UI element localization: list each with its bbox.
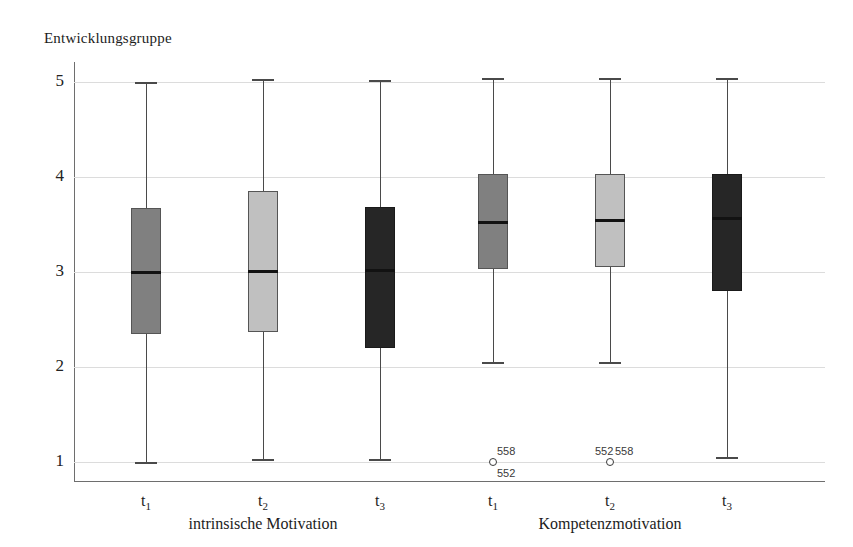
x-axis-tick-label: t2 — [233, 492, 293, 512]
whisker-upper — [493, 78, 494, 174]
whisker-lower — [380, 348, 381, 459]
chart-y-axis-title: Entwicklungsgruppe — [44, 30, 172, 47]
y-axis-tick-label: 5 — [38, 71, 64, 91]
group-label-1: intrinsische Motivation — [189, 515, 338, 533]
whisker-lower — [146, 334, 147, 462]
whisker-cap-lower — [252, 459, 274, 461]
median-line — [595, 219, 625, 222]
y-axis-tick-label: 2 — [38, 356, 64, 376]
median-line — [131, 271, 161, 274]
whisker-cap-upper — [252, 79, 274, 81]
box-iqr-rect — [712, 174, 742, 291]
whisker-cap-lower — [369, 459, 391, 461]
outlier-label: 552 — [595, 445, 613, 457]
whisker-cap-upper — [599, 78, 621, 80]
gridline — [74, 82, 825, 83]
outlier-label: 558 — [497, 445, 515, 457]
gridline — [74, 462, 825, 463]
whisker-upper — [610, 78, 611, 174]
median-line — [712, 217, 742, 220]
outlier-label: 558 — [615, 445, 633, 457]
outlier-point — [489, 458, 497, 466]
whisker-lower — [727, 291, 728, 457]
median-line — [478, 221, 508, 224]
x-tick-subscript: 1 — [145, 500, 151, 512]
x-tick-subscript: 3 — [726, 500, 732, 512]
gridline — [74, 367, 825, 368]
x-axis-tick-label: t3 — [350, 492, 410, 512]
whisker-cap-lower — [135, 462, 157, 464]
x-axis-tick-label: t1 — [463, 492, 523, 512]
whisker-cap-lower — [482, 362, 504, 364]
whisker-cap-upper — [369, 80, 391, 82]
whisker-cap-upper — [135, 82, 157, 84]
group-label-2: Kompetenzmotivation — [538, 515, 681, 533]
whisker-cap-lower — [716, 457, 738, 459]
boxplot-chart: Entwicklungsgruppe 12345 558552552558 t1… — [0, 0, 853, 547]
y-axis-tick-label: 4 — [38, 166, 64, 186]
whisker-cap-upper — [716, 78, 738, 80]
x-tick-subscript: 2 — [262, 500, 268, 512]
whisker-upper — [727, 78, 728, 174]
outlier-point — [606, 458, 614, 466]
box-iqr-rect — [248, 191, 278, 332]
whisker-lower — [263, 332, 264, 459]
x-axis-tick-label: t1 — [116, 492, 176, 512]
x-axis-line — [74, 481, 825, 482]
outlier-label: 552 — [497, 467, 515, 479]
x-axis-tick-label: t3 — [697, 492, 757, 512]
x-tick-subscript: 2 — [609, 500, 615, 512]
x-tick-subscript: 3 — [379, 500, 385, 512]
whisker-upper — [380, 80, 381, 207]
whisker-cap-lower — [599, 362, 621, 364]
whisker-upper — [263, 79, 264, 191]
y-axis-tick-label: 3 — [38, 261, 64, 281]
median-line — [365, 269, 395, 272]
y-axis-tick-label: 1 — [38, 451, 64, 471]
x-axis-tick-label: t2 — [580, 492, 640, 512]
median-line — [248, 270, 278, 273]
box-iqr-rect — [365, 207, 395, 348]
whisker-lower — [493, 269, 494, 362]
x-tick-subscript: 1 — [492, 500, 498, 512]
whisker-cap-upper — [482, 78, 504, 80]
whisker-upper — [146, 82, 147, 208]
whisker-lower — [610, 267, 611, 362]
